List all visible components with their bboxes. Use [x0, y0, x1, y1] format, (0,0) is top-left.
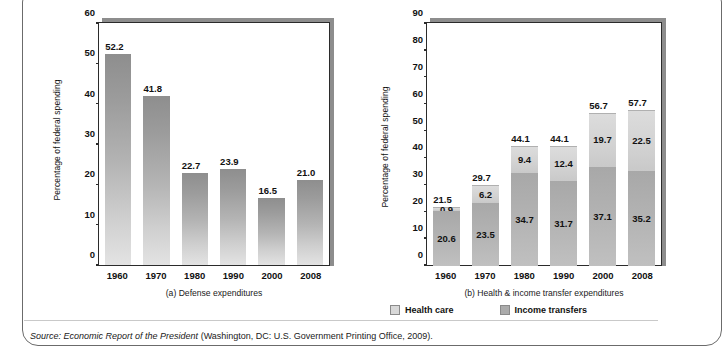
subcaption-a: (a) Defense expenditures [98, 288, 330, 298]
stacked-bar-2000[interactable]: 56.719.737.1 [589, 113, 616, 265]
y-tick-label-b-10: 10 [412, 222, 423, 233]
stacked-bar-1990[interactable]: 44.112.431.7 [550, 146, 577, 265]
legend-swatch-income-icon [500, 305, 510, 315]
segment-value-label-1960: 20.6 [437, 234, 456, 244]
bar-slot-2008: 57.722.535.2 [622, 23, 661, 265]
source-prefix: Source: [30, 331, 61, 341]
bar-group-defense: 52.241.822.723.916.521.0 [99, 23, 329, 265]
bar-segment-income-transfers-1970[interactable]: 23.5 [472, 203, 499, 266]
bar-segment-income-transfers-1990[interactable]: 31.7 [550, 181, 577, 266]
bar-defense-1990[interactable]: 23.9 [220, 169, 246, 265]
plot-shadow-right-a [330, 18, 334, 266]
bar-defense-1980[interactable]: 22.7 [182, 173, 208, 265]
bar-total-label-1990: 44.1 [550, 133, 569, 144]
plot-shadow-right-b [662, 18, 666, 266]
stacked-bar-1970[interactable]: 29.76.223.5 [472, 185, 499, 265]
chart-legend: Health careIncome transfers [390, 305, 587, 315]
legend-label-income: Income transfers [515, 305, 588, 315]
x-tick-label-b-1990: 1990 [544, 270, 583, 281]
segment-value-label-1990: 31.7 [554, 219, 573, 229]
plot-area-health-income: 0102030405060708090 21.50.920.629.76.223… [426, 22, 662, 266]
y-tick-label-b-0: 0 [418, 249, 423, 260]
bar-slot-1970: 41.8 [137, 23, 175, 265]
y-tick-label-a-40: 40 [84, 87, 95, 98]
bar-defense-2008[interactable]: 21.0 [297, 180, 323, 265]
x-tick-label-b-1980: 1980 [505, 270, 544, 281]
legend-item-income[interactable]: Income transfers [500, 305, 588, 315]
bar-total-label-1980: 44.1 [511, 133, 530, 144]
y-tick-label-b-30: 30 [412, 168, 423, 179]
bar-slot-1970: 29.76.223.5 [466, 23, 505, 265]
source-note: Source: Economic Report of the President… [30, 331, 433, 341]
y-tick-label-b-80: 80 [412, 33, 423, 44]
x-tick-label-a-2008: 2008 [291, 270, 330, 281]
bar-value-label-1970: 41.8 [143, 83, 162, 94]
x-tick-label-b-1970: 1970 [465, 270, 504, 281]
bar-slot-1980: 22.7 [176, 23, 214, 265]
stacked-bar-1980[interactable]: 44.19.434.7 [511, 146, 538, 265]
segment-value-label-2008: 22.5 [632, 136, 651, 146]
y-tick-label-b-90: 90 [412, 7, 423, 18]
segment-value-label-1980: 34.7 [515, 215, 534, 225]
stacked-bar-2008[interactable]: 57.722.535.2 [628, 110, 655, 265]
y-tick-label-b-40: 40 [412, 141, 423, 152]
bar-defense-1960[interactable]: 52.2 [105, 54, 131, 265]
y-tick-label-a-30: 30 [84, 128, 95, 139]
bar-value-label-1980: 22.7 [182, 160, 201, 171]
bar-segment-income-transfers-2008[interactable]: 35.2 [628, 171, 655, 266]
y-axis-title-b: Percentage of federal spending [380, 22, 394, 272]
bar-total-label-2008: 57.7 [628, 97, 647, 108]
bar-group-health-income: 21.50.920.629.76.223.544.19.434.744.112.… [427, 23, 661, 265]
bar-slot-1990: 44.112.431.7 [544, 23, 583, 265]
bar-total-label-1970: 29.7 [472, 172, 491, 183]
y-axis-title-a: Percentage of federal spending [52, 15, 66, 265]
x-axis-labels-b: 196019701980199020002008 [426, 270, 662, 281]
x-tick-label-a-1970: 1970 [137, 270, 176, 281]
x-tick-label-a-1980: 1980 [175, 270, 214, 281]
segment-value-label-1970: 23.5 [476, 230, 495, 240]
x-tick-label-a-1990: 1990 [214, 270, 253, 281]
bar-segment-health-care-1970[interactable]: 6.2 [472, 185, 499, 203]
stacked-bar-1960[interactable]: 21.50.920.6 [433, 207, 460, 265]
y-tick-label-a-10: 10 [84, 208, 95, 219]
segment-value-label-2000: 19.7 [593, 135, 612, 145]
bar-slot-1960: 52.2 [99, 23, 137, 265]
bar-segment-income-transfers-1960[interactable]: 20.6 [433, 211, 460, 266]
bar-segment-health-care-2008[interactable]: 22.5 [628, 110, 655, 171]
y-tick-label-a-60: 60 [84, 7, 95, 18]
bar-segment-health-care-1980[interactable]: 9.4 [511, 146, 538, 172]
subcaption-b: (b) Health & income transfer expenditure… [416, 288, 672, 298]
y-tick-label-a-0: 0 [90, 249, 95, 260]
bar-slot-1980: 44.19.434.7 [505, 23, 544, 265]
bar-slot-1960: 21.50.920.6 [427, 23, 466, 265]
bar-segment-income-transfers-1980[interactable]: 34.7 [511, 173, 538, 266]
plot-area-defense: 0102030405060 52.241.822.723.916.521.0 [98, 22, 330, 266]
segment-value-label-1990: 12.4 [554, 159, 573, 169]
segment-value-label-2008: 35.2 [632, 214, 651, 224]
legend-item-health[interactable]: Health care [390, 305, 454, 315]
x-tick-label-b-2008: 2008 [623, 270, 662, 281]
x-tick-label-b-1960: 1960 [426, 270, 465, 281]
bar-defense-2000[interactable]: 16.5 [258, 198, 284, 265]
x-tick-label-a-1960: 1960 [98, 270, 137, 281]
bar-slot-2000: 56.719.737.1 [583, 23, 622, 265]
x-axis-labels-a: 196019701980199020002008 [98, 270, 330, 281]
source-title: Economic Report of the President [64, 331, 199, 341]
bar-segment-income-transfers-2000[interactable]: 37.1 [589, 167, 616, 267]
bar-value-label-2000: 16.5 [258, 185, 277, 196]
bar-total-label-2000: 56.7 [589, 100, 608, 111]
segment-value-label-2000: 37.1 [593, 212, 612, 222]
bar-value-label-1960: 52.2 [105, 41, 124, 52]
source-publisher: (Washington, DC: U.S. Government Printin… [201, 331, 433, 341]
bar-segment-health-care-2000[interactable]: 19.7 [589, 113, 616, 167]
segment-value-label-1970: 6.2 [479, 190, 492, 200]
source-divider [24, 320, 658, 321]
bar-segment-health-care-1990[interactable]: 12.4 [550, 146, 577, 180]
bar-slot-1990: 23.9 [214, 23, 252, 265]
y-tick-label-b-70: 70 [412, 60, 423, 71]
y-tick-label-a-50: 50 [84, 47, 95, 58]
bar-defense-1970[interactable]: 41.8 [143, 96, 169, 265]
y-tick-label-b-50: 50 [412, 114, 423, 125]
bar-slot-2008: 21.0 [291, 23, 329, 265]
